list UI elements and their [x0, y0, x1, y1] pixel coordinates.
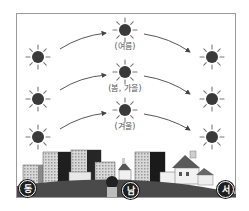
sun-icon: [26, 125, 50, 149]
compass-south: 남: [122, 182, 139, 199]
sun-icon: [26, 45, 50, 69]
sun-icon: [200, 87, 224, 111]
compass-east: 동: [19, 180, 36, 197]
winter-rising-arrow: [60, 113, 106, 129]
sun-icon: [200, 45, 224, 69]
sun-icon: [113, 60, 137, 84]
sun-path-scene: [0, 0, 249, 211]
spring-autumn-rising-arrow: [60, 75, 106, 90]
sun-icon: [113, 98, 137, 122]
summer-setting-arrow: [144, 34, 190, 52]
compass-west: 서: [217, 181, 234, 198]
sun-icon: [113, 18, 137, 42]
spring-autumn-setting-arrow: [144, 76, 190, 94]
winter-label: (겨울): [114, 120, 135, 131]
sun-icon: [200, 125, 224, 149]
spring-autumn-label: (봄, 가을): [108, 82, 142, 93]
winter-setting-arrow: [144, 114, 190, 130]
sun-icon: [26, 87, 50, 111]
summer-rising-arrow: [60, 33, 106, 49]
summer-label: (여름): [114, 40, 135, 51]
